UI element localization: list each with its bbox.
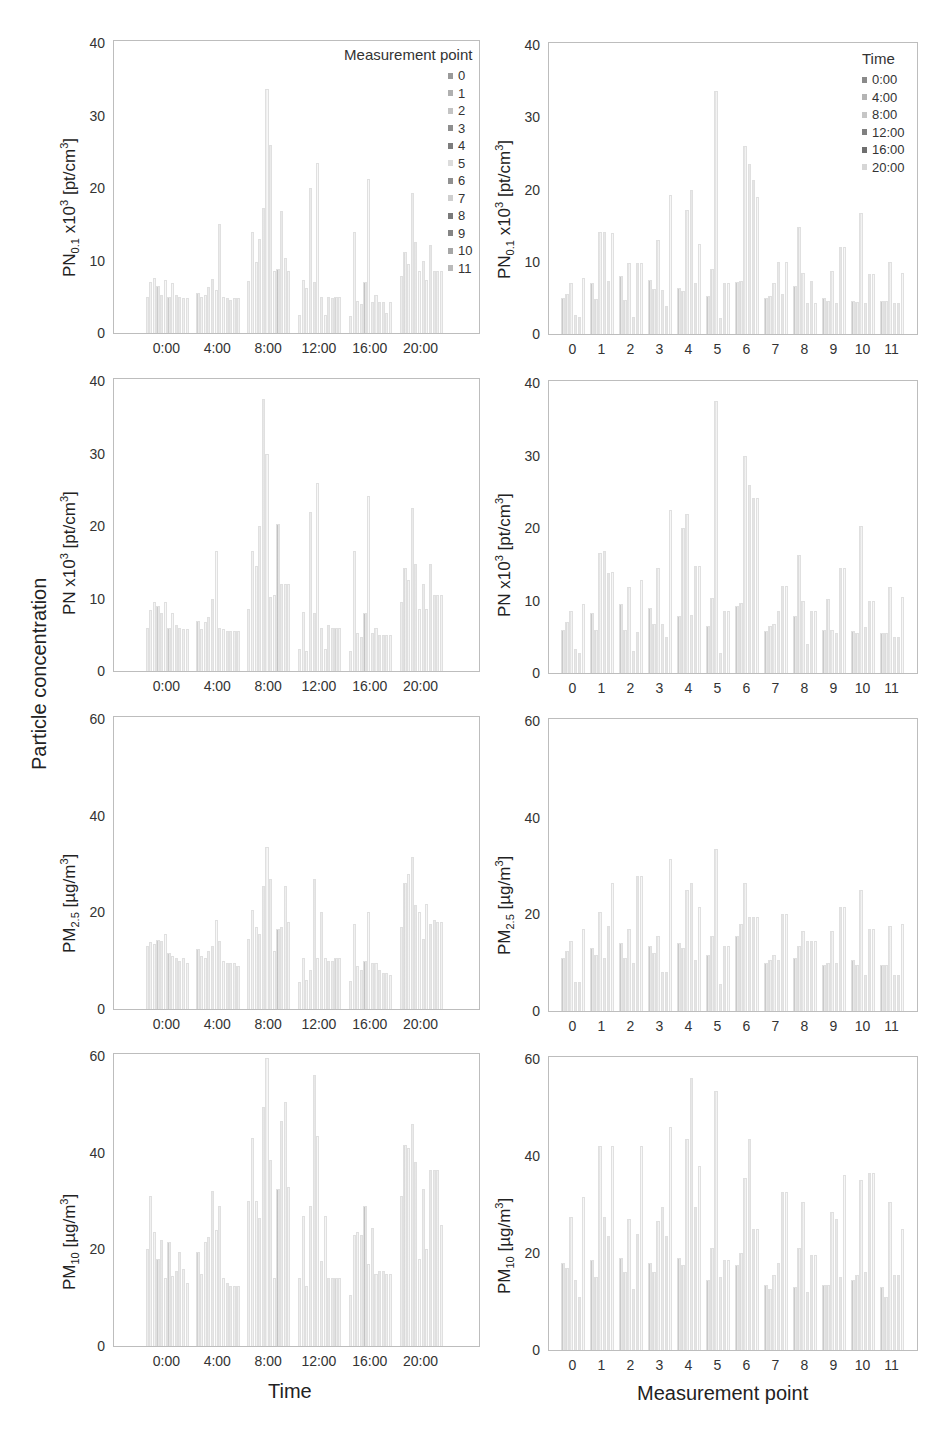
legend-swatch-icon	[862, 77, 867, 83]
bar	[186, 629, 189, 671]
bar	[694, 1207, 698, 1350]
bar	[781, 1192, 785, 1350]
bar	[302, 958, 305, 1009]
x-tick-label: 12:00	[294, 340, 344, 356]
bar	[884, 1297, 888, 1350]
bar	[611, 1146, 615, 1350]
legend-label: 0	[458, 68, 465, 83]
bar	[656, 1221, 660, 1350]
bar	[186, 963, 189, 1009]
x-tick-label: 20:00	[396, 1353, 446, 1369]
x-tick-label: 8:00	[243, 1353, 293, 1369]
bar	[855, 302, 859, 334]
bar	[851, 301, 855, 334]
y-axis-label: PM10 [µg/m3]	[493, 1197, 516, 1293]
bar	[888, 1202, 892, 1350]
legend-label: 2	[458, 103, 465, 118]
bar	[706, 296, 710, 334]
bar	[627, 263, 631, 334]
bar	[685, 890, 689, 1011]
legend-item: 0:00	[862, 71, 905, 89]
bar	[868, 1173, 872, 1350]
bar	[627, 587, 631, 673]
legend-item: 4	[448, 137, 472, 155]
left-x-axis-label: Time	[268, 1380, 312, 1403]
bar	[258, 934, 261, 1009]
bar	[623, 300, 627, 334]
bar	[785, 262, 789, 334]
legend-item: 20:00	[862, 159, 905, 177]
bar	[411, 1124, 414, 1346]
bar	[752, 498, 756, 673]
shared-y-axis-label: Particle concentration	[28, 578, 51, 770]
bar	[632, 1289, 636, 1350]
legend-label: 6	[458, 173, 465, 188]
bar	[806, 941, 810, 1011]
bar	[901, 273, 905, 334]
bar	[851, 1280, 855, 1350]
bar	[797, 555, 801, 673]
bar	[623, 958, 627, 1011]
bar	[727, 946, 731, 1011]
bar	[640, 876, 644, 1011]
bar	[636, 876, 640, 1011]
bar	[287, 271, 290, 333]
bar	[739, 281, 743, 334]
bar	[822, 630, 826, 674]
bar	[611, 572, 615, 674]
bar	[175, 295, 178, 333]
bar	[710, 936, 714, 1011]
bar	[719, 1277, 723, 1350]
bar	[640, 580, 644, 673]
y-axis-label-part: PN	[495, 593, 514, 617]
bar	[781, 914, 785, 1011]
bar	[835, 303, 839, 334]
bar	[814, 303, 818, 334]
bar	[826, 1285, 830, 1350]
y-axis-label-part: PN	[60, 591, 79, 615]
bar	[389, 975, 392, 1009]
bar	[690, 883, 694, 1011]
bar	[611, 883, 615, 1011]
y-axis-label-part: 3	[58, 553, 70, 559]
bar	[665, 972, 669, 1011]
bar	[594, 955, 598, 1011]
bar	[868, 929, 872, 1011]
y-tick-label: 0	[75, 325, 105, 341]
bar	[652, 1272, 656, 1350]
bar	[756, 498, 760, 673]
legend-measurement-point: Measurement point01234567891011	[318, 46, 472, 277]
bar	[727, 283, 731, 334]
bar	[302, 612, 305, 671]
legend-label: 16:00	[872, 142, 905, 157]
y-axis-label-part: ]	[495, 856, 514, 861]
bar	[793, 616, 797, 673]
x-tick-label: 11	[867, 1357, 917, 1373]
bar	[743, 883, 747, 1011]
bar	[338, 958, 341, 1009]
bar	[652, 953, 656, 1011]
x-tick-label: 4:00	[192, 1353, 242, 1369]
bar	[440, 922, 443, 1009]
x-tick-label: 20:00	[396, 678, 446, 694]
legend-swatch-icon	[448, 125, 453, 131]
bar	[806, 1292, 810, 1350]
y-axis-label-part: 0.1	[504, 240, 516, 255]
bar	[661, 972, 665, 1011]
bar	[411, 857, 414, 1009]
bar	[284, 886, 287, 1009]
bar	[436, 922, 439, 1009]
bar	[851, 631, 855, 673]
bar	[578, 982, 582, 1011]
bar	[236, 298, 239, 333]
bar	[623, 630, 627, 674]
bar	[656, 568, 660, 673]
bar	[810, 611, 814, 673]
bar	[830, 1212, 834, 1350]
bar	[764, 298, 768, 334]
legend-item: 10	[448, 242, 472, 260]
bar	[611, 233, 615, 334]
bar	[258, 526, 261, 671]
bar	[565, 1268, 569, 1350]
bar	[685, 514, 689, 674]
